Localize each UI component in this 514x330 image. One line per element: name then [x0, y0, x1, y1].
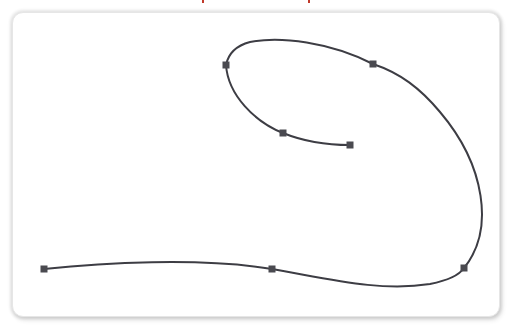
bezier-curve[interactable] [44, 40, 482, 287]
control-point-handles [41, 61, 468, 273]
control-point-handle-p1[interactable] [41, 266, 48, 273]
control-point-handle-p7[interactable] [347, 142, 354, 149]
control-point-handle-p6[interactable] [280, 130, 287, 137]
curve-canvas[interactable] [0, 0, 514, 330]
control-point-handle-p3[interactable] [461, 265, 468, 272]
control-point-handle-p4[interactable] [370, 61, 377, 68]
control-point-handle-p2[interactable] [269, 266, 276, 273]
control-point-handle-p5[interactable] [223, 62, 230, 69]
